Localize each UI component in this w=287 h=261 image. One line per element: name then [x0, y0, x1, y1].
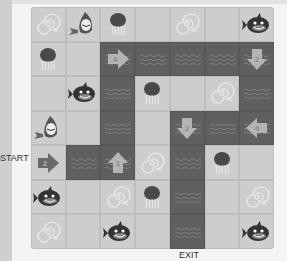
- board-cell-r5-c5[interactable]: [205, 180, 240, 215]
- jellyfish-icon: [107, 11, 129, 37]
- arrow-right-icon: 2: [36, 152, 60, 174]
- board-cell-r4-c4[interactable]: [170, 145, 205, 180]
- shark-icon: [68, 10, 98, 38]
- board-cell-r1-c3[interactable]: [135, 42, 170, 77]
- board-cell-r1-c4[interactable]: [170, 42, 205, 77]
- board-cell-r2-c4[interactable]: [170, 76, 205, 111]
- orca-icon: [242, 13, 272, 35]
- board-cell-r3-c3[interactable]: [135, 111, 170, 146]
- board-cell-r2-c6[interactable]: [239, 76, 274, 111]
- exit-label: EXIT: [179, 250, 199, 260]
- arrow-left-icon: 4: [240, 112, 273, 145]
- board-cell-r0-c6[interactable]: [239, 7, 274, 42]
- orca-icon: [103, 221, 133, 243]
- board-cell-r1-c6[interactable]: 2: [239, 42, 274, 77]
- swirl-icon: [244, 184, 270, 210]
- board-cell-r5-c2[interactable]: [100, 180, 135, 215]
- board-cell-r0-c4[interactable]: [170, 7, 205, 42]
- jellyfish-icon: [141, 184, 163, 210]
- arrow-down-icon: 2: [171, 112, 204, 145]
- board-cell-r3-c1[interactable]: [66, 111, 101, 146]
- board-cell-r6-c2[interactable]: [100, 214, 135, 249]
- board-cell-r4-c0[interactable]: 2: [31, 145, 66, 180]
- board-cell-r6-c4[interactable]: [170, 214, 205, 249]
- board-cell-r1-c2[interactable]: 4: [100, 42, 135, 77]
- board-cell-r5-c1[interactable]: [66, 180, 101, 215]
- board-cell-r0-c5[interactable]: [205, 7, 240, 42]
- board-cell-r4-c3[interactable]: [135, 145, 170, 180]
- board-cell-r6-c0[interactable]: [31, 214, 66, 249]
- board-cell-r3-c4[interactable]: 2: [170, 111, 205, 146]
- board-cell-r2-c1[interactable]: [66, 76, 101, 111]
- arrow-up-icon: 1: [101, 146, 134, 179]
- board-cell-r1-c5[interactable]: [205, 42, 240, 77]
- board-cell-r4-c6[interactable]: [239, 145, 274, 180]
- arrow-down-icon: 2: [240, 43, 273, 76]
- board-cell-r4-c5[interactable]: [205, 145, 240, 180]
- swirl-icon: [174, 11, 200, 37]
- board-cell-r1-c0[interactable]: [31, 42, 66, 77]
- game-board: 422421: [31, 7, 274, 249]
- board-cell-r1-c1[interactable]: [66, 42, 101, 77]
- svg-text:1: 1: [116, 159, 121, 168]
- shark-icon: [33, 114, 63, 142]
- svg-text:4: 4: [254, 124, 259, 133]
- board-cell-r4-c2[interactable]: 1: [100, 145, 135, 180]
- orca-icon: [33, 186, 63, 208]
- board-cell-r0-c0[interactable]: [31, 7, 66, 42]
- board-cell-r2-c5[interactable]: [205, 76, 240, 111]
- board-cell-r5-c4[interactable]: [170, 180, 205, 215]
- board-cell-r0-c2[interactable]: [100, 7, 135, 42]
- jellyfish-icon: [37, 46, 59, 72]
- swirl-icon: [209, 80, 235, 106]
- board-cell-r3-c6[interactable]: 4: [239, 111, 274, 146]
- start-label: START: [0, 153, 29, 163]
- orca-icon: [242, 221, 272, 243]
- board-cell-r0-c1[interactable]: [66, 7, 101, 42]
- board-cell-r5-c0[interactable]: [31, 180, 66, 215]
- board-cell-r2-c2[interactable]: [100, 76, 135, 111]
- orca-icon: [68, 82, 98, 104]
- board-cell-r6-c5[interactable]: [205, 214, 240, 249]
- swirl-icon: [105, 184, 131, 210]
- svg-text:2: 2: [254, 55, 259, 64]
- svg-text:2: 2: [185, 124, 190, 133]
- board-cell-r3-c5[interactable]: [205, 111, 240, 146]
- jellyfish-icon: [211, 150, 233, 176]
- svg-text:4: 4: [113, 55, 118, 64]
- board-cell-r4-c1[interactable]: [66, 145, 101, 180]
- board-cell-r2-c3[interactable]: [135, 76, 170, 111]
- board-cell-r6-c6[interactable]: [239, 214, 274, 249]
- svg-text:2: 2: [43, 159, 48, 168]
- board-cell-r6-c3[interactable]: [135, 214, 170, 249]
- board-cell-r2-c0[interactable]: [31, 76, 66, 111]
- arrow-right-icon: 4: [101, 43, 134, 76]
- swirl-icon: [139, 150, 165, 176]
- board-cell-r6-c1[interactable]: [66, 214, 101, 249]
- jellyfish-icon: [141, 80, 163, 106]
- board-cell-r3-c2[interactable]: [100, 111, 135, 146]
- board-cell-r3-c0[interactable]: [31, 111, 66, 146]
- left-margin: [0, 0, 12, 261]
- top-margin: [12, 0, 287, 4]
- swirl-icon: [35, 219, 61, 245]
- swirl-icon: [35, 11, 61, 37]
- board-cell-r0-c3[interactable]: [135, 7, 170, 42]
- board-cell-r5-c6[interactable]: [239, 180, 274, 215]
- board-cell-r5-c3[interactable]: [135, 180, 170, 215]
